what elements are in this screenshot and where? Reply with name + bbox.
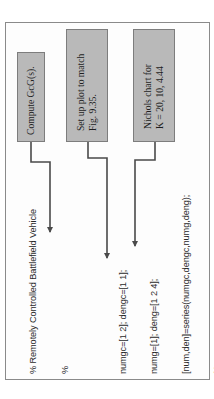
annotation-setup-line1: Set up plot to match [75, 36, 87, 131]
annotation-setup: Set up plot to match Fig. 9.35. [66, 29, 108, 142]
arrow-compute [31, 142, 50, 232]
rotated-figure: % Remotely Controlled Battlefield Vehicl… [0, 0, 214, 399]
arrow-setup [88, 142, 107, 258]
arrow-nichols [135, 142, 155, 246]
annotation-compute: Compute GᴄG(s). [17, 52, 45, 142]
annotation-compute-text: Compute GᴄG(s). [25, 59, 37, 135]
annotation-nichols-line1: Nichols chart for [142, 36, 154, 129]
annotation-nichols-line2: K = 20, 10, 4.44 [154, 36, 166, 129]
annotation-nichols: Nichols chart for K = 20, 10, 4.44 [133, 29, 175, 142]
annotation-setup-line2: Fig. 9.35. [87, 36, 99, 131]
